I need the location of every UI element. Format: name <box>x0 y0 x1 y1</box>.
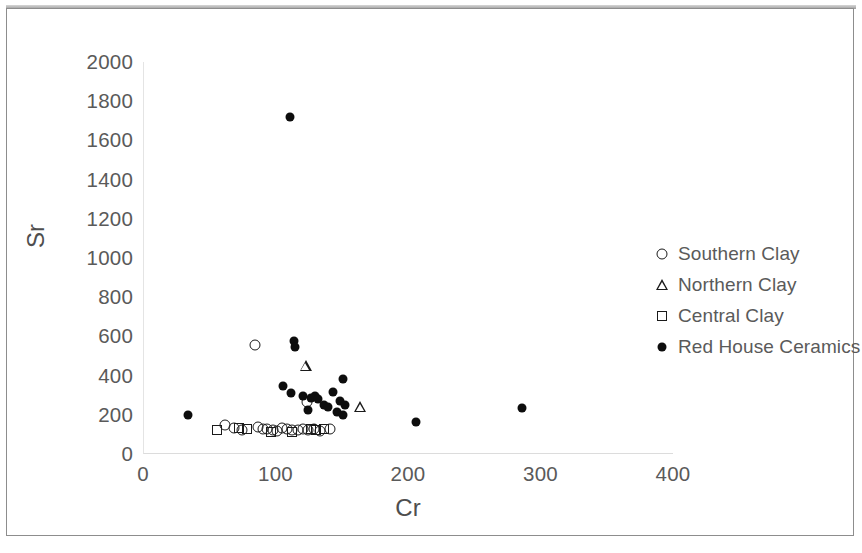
filled-circle-marker <box>338 375 347 384</box>
x-axis-tick-label: 300 <box>523 462 558 486</box>
open-triangle-marker <box>300 360 312 371</box>
open-triangle-icon <box>652 275 672 295</box>
open-square-marker <box>657 311 667 321</box>
y-axis-tick-label: 0 <box>121 442 133 466</box>
filled-circle-marker <box>341 401 350 410</box>
legend-item[interactable]: Northern Clay <box>652 269 857 300</box>
open-circle-marker <box>657 248 668 259</box>
filled-circle-marker <box>183 411 192 420</box>
filled-circle-marker <box>279 381 288 390</box>
open-triangle-marker <box>656 278 668 289</box>
x-axis-tick-label: 200 <box>391 462 426 486</box>
y-axis-tick-label: 1600 <box>87 128 133 152</box>
open-square-icon <box>652 306 672 326</box>
x-axis-tick-label: 400 <box>656 462 691 486</box>
legend-item[interactable]: Southern Clay <box>652 238 857 269</box>
open-square-marker <box>319 424 329 434</box>
legend-item-label: Central Clay <box>678 305 784 327</box>
x-axis-tick-labels: 0100200300400 <box>143 462 673 492</box>
filled-circle-marker <box>287 389 296 398</box>
filled-circle-marker <box>338 411 347 420</box>
y-axis-tick-label: 2000 <box>87 50 133 74</box>
filled-circle-marker <box>304 406 313 415</box>
y-axis-tick-label: 600 <box>98 324 133 348</box>
chart-legend: Southern ClayNorthern ClayCentral ClayRe… <box>652 238 857 362</box>
filled-circle-marker <box>517 404 526 413</box>
y-axis-tick-label: 1400 <box>87 168 133 192</box>
open-circle-icon <box>652 244 672 264</box>
filled-circle-marker <box>291 342 300 351</box>
y-axis-tick-label: 1000 <box>87 246 133 270</box>
filled-circle-marker <box>329 387 338 396</box>
open-circle-marker <box>250 340 261 351</box>
y-axis-tick-labels: 0200400600800100012001400160018002000 <box>55 62 133 454</box>
scatter-plot-page: Sr 0200400600800100012001400160018002000… <box>0 0 862 553</box>
chart-canvas: Sr 0200400600800100012001400160018002000… <box>0 0 862 553</box>
filled-circle-marker <box>658 342 667 351</box>
open-square-marker <box>212 425 222 435</box>
legend-item-label: Southern Clay <box>678 243 800 265</box>
open-square-marker <box>287 427 297 437</box>
x-axis-tick-label: 100 <box>258 462 293 486</box>
legend-item[interactable]: Red House Ceramics <box>652 331 857 362</box>
y-axis-tick-label: 400 <box>98 364 133 388</box>
filled-circle-marker <box>411 418 420 427</box>
y-axis-tick-label: 1200 <box>87 207 133 231</box>
open-square-marker <box>242 424 252 434</box>
legend-item[interactable]: Central Clay <box>652 300 857 331</box>
legend-item-label: Red House Ceramics <box>678 336 860 358</box>
legend-item-label: Northern Clay <box>678 274 797 296</box>
filled-circle-marker <box>285 113 294 122</box>
y-axis-tick-label: 800 <box>98 285 133 309</box>
y-axis-title: Sr <box>22 224 50 248</box>
y-axis-tick-label: 200 <box>98 403 133 427</box>
x-axis-title: Cr <box>143 494 673 522</box>
filled-circle-icon <box>652 337 672 357</box>
open-triangle-marker <box>354 401 366 412</box>
x-axis-tick-label: 0 <box>137 462 149 486</box>
y-axis-tick-label: 1800 <box>87 89 133 113</box>
plot-area <box>143 62 673 454</box>
filled-circle-marker <box>324 403 333 412</box>
open-square-marker <box>266 427 276 437</box>
